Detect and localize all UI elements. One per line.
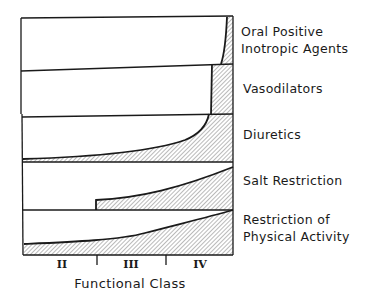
band-labels: Oral Positive Inotropic Agents Vasodilat… [241, 24, 350, 244]
x-axis: II III IV Functional Class [57, 255, 207, 291]
treatment-diagram: II III IV Functional Class Oral Positive… [0, 0, 375, 302]
label-physical-activity-line2: Physical Activity [243, 229, 350, 244]
band-salt-restriction-area [96, 167, 233, 210]
x-label-class-4: IV [193, 258, 207, 271]
x-axis-title: Functional Class [74, 276, 186, 291]
label-oral-inotropic-line2: Inotropic Agents [241, 41, 348, 56]
band-vasodilators-curve [211, 64, 212, 114]
band-physical-activity [24, 210, 233, 255]
label-vasodilators: Vasodilators [243, 81, 323, 96]
label-oral-inotropic-line1: Oral Positive [241, 24, 323, 39]
band-physical-activity-area [24, 210, 233, 255]
divider-2 [22, 114, 233, 117]
x-label-class-2: II [57, 258, 67, 271]
divider-1 [21, 64, 233, 71]
band-diuretics [23, 114, 233, 162]
band-salt-restriction [96, 167, 233, 210]
label-physical-activity-line1: Restriction of [243, 212, 330, 227]
band-oral-inotropic [221, 16, 233, 64]
band-vasodilators [211, 64, 233, 114]
band-diuretics-area [23, 114, 233, 162]
band-vasodilators-area [211, 64, 233, 114]
label-salt-restriction: Salt Restriction [243, 173, 342, 188]
x-label-class-3: III [123, 258, 138, 271]
label-diuretics: Diuretics [243, 127, 301, 142]
